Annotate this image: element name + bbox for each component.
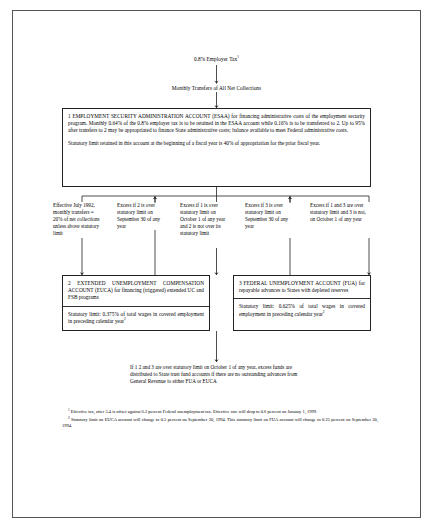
fua-footnote-mark: 2 [323,310,325,314]
footnote-1-text: Effective tax, after 5.4 is offset again… [71,409,317,414]
euca-statutory-limit-text: Statutory limit: 0.375% of total wages i… [68,311,204,324]
monthly-transfer-label: Monthly Transfers of All Net Collections [131,85,302,92]
euca-box: 2 EXTENDED UNEMPLOYMENT COMPENSATION ACC… [62,275,210,331]
euca-divider [63,306,209,307]
fua-statutory-limit-text: Statutory limit: 0.625% of total wages i… [239,303,365,316]
branch-label-1: Effective July 1992, monthly transfers =… [53,202,101,237]
euca-footnote-mark: 2 [124,317,126,321]
footnote-1: 1 Effective tax, after 5.4 is offset aga… [62,409,378,416]
branch-label-5: Excess if 1 and 3 are over statutory lim… [310,202,372,223]
fua-divider [234,298,370,299]
euca-paragraph-2: Statutory limit: 0.375% of total wages i… [68,311,204,325]
esaa-paragraph-2: Statutory limit retained in this account… [68,140,365,147]
top-source-footnote-mark: 1 [237,55,239,59]
esaa-box: 1 EMPLOYMENT SECURITY ADMINISTRATION ACC… [62,108,371,187]
branch-label-2: Excess if 2 is over statutory limit on S… [117,202,167,230]
euca-paragraph-1: 2 EXTENDED UNEMPLOYMENT COMPENSATION ACC… [68,280,204,302]
footnote-2: 2 Statutory limit on EUCA account will c… [62,417,378,430]
branch-label-3: Excess if 1 is over statutory limit on O… [180,202,228,237]
footnote-1-mark: 1 [68,408,70,412]
footnotes: 1 Effective tax, after 5.4 is offset aga… [62,409,378,430]
footnote-2-mark: 2 [68,415,70,419]
fua-paragraph-2: Statutory limit: 0.625% of total wages i… [239,303,365,317]
bottom-distribution-note: If 1 2 and 3 are over statutory limit on… [130,364,310,385]
footnote-2-text: Statutory limit on EUCA account will cha… [62,417,378,429]
top-source-label: 0.8% Employer Tax1 [141,56,292,63]
esaa-paragraph-1: 1 EMPLOYMENT SECURITY ADMINISTRATION ACC… [68,113,365,135]
fua-paragraph-1: 3 FEDERAL UNEMPLOYMENT ACCOUNT (FUA) for… [239,280,365,294]
diagram-page: 0.8% Employer Tax1 Monthly Transfers of … [0,0,433,528]
top-source-text: 0.8% Employer Tax [194,56,237,62]
branch-label-4: Excess if 3 is over statutory limit on S… [245,202,295,230]
fua-box: 3 FEDERAL UNEMPLOYMENT ACCOUNT (FUA) for… [233,275,371,331]
